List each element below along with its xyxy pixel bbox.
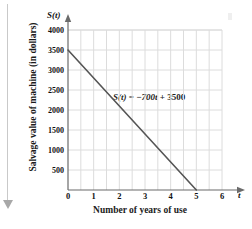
axis-lines bbox=[65, 14, 245, 193]
plot-canvas bbox=[0, 0, 252, 229]
gridlines bbox=[68, 30, 222, 190]
chart-figure: Salvage value of machine (in dollars) Nu… bbox=[0, 0, 252, 229]
